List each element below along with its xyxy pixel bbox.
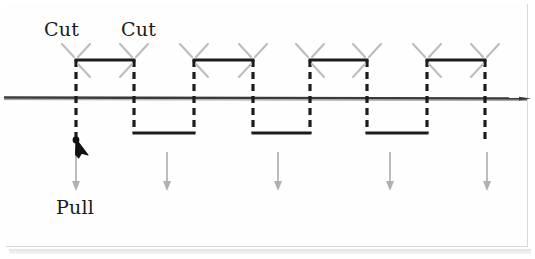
cut-mark-icon — [180, 44, 192, 57]
square-wave-diagram — [0, 0, 535, 259]
figure-canvas: Cut Cut Pull — [0, 0, 535, 259]
cut-mark-icon — [487, 44, 499, 57]
label-cut-right: Cut — [121, 18, 156, 40]
down-arrow-icon — [386, 152, 394, 191]
pull-pointer-icon — [73, 137, 88, 158]
baseline-highlight — [4, 100, 527, 101]
cut-mark-icon — [471, 44, 483, 57]
baseline-group — [4, 97, 531, 101]
cut-mark-icon — [353, 44, 365, 57]
cut-mark-icon — [136, 44, 148, 57]
cut-mark-icon — [296, 44, 308, 57]
cut-mark-icon — [239, 44, 251, 57]
cut-mark-icon — [429, 64, 441, 77]
label-pull: Pull — [56, 196, 94, 218]
cut-mark-icon — [429, 44, 441, 57]
cut-mark-icon — [62, 44, 74, 57]
down-arrows-group — [72, 150, 491, 191]
cut-mark-icon — [196, 64, 208, 77]
cut-mark-icon — [413, 44, 425, 57]
cut-mark-icon — [120, 44, 132, 57]
cut-mark-icon — [369, 44, 381, 57]
label-cut-left: Cut — [44, 18, 79, 40]
cut-mark-icon — [239, 64, 251, 77]
down-arrow-icon — [483, 152, 491, 191]
cut-mark-icon — [312, 64, 324, 77]
cut-mark-icon — [353, 64, 365, 77]
cut-mark-icon — [312, 44, 324, 57]
cut-mark-icon — [120, 64, 132, 77]
down-arrow-icon — [274, 152, 282, 191]
cut-mark-icon — [471, 64, 483, 77]
down-arrow-icon — [163, 152, 171, 191]
cut-mark-icon — [78, 44, 90, 57]
baseline — [4, 98, 527, 99]
cut-mark-icon — [255, 44, 267, 57]
cut-mark-icon — [196, 44, 208, 57]
